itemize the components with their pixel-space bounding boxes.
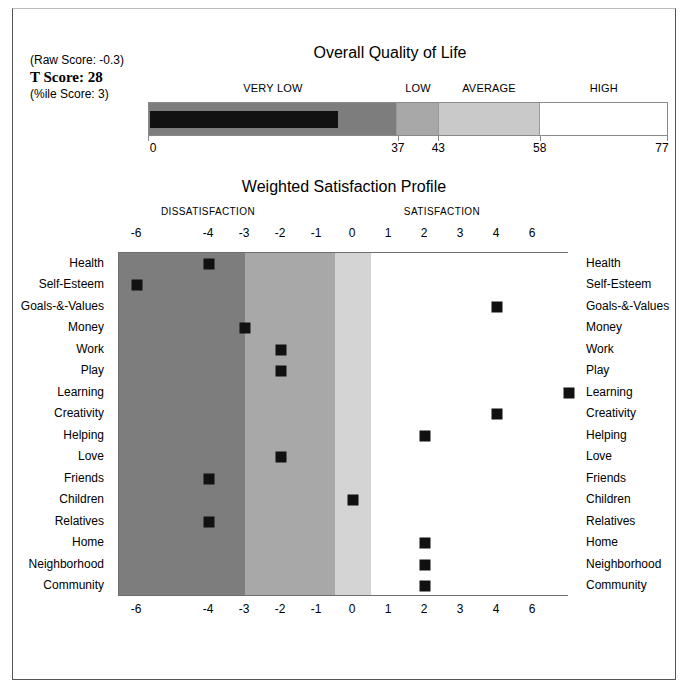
qol-category-label-high: HIGH (540, 82, 668, 94)
profile-band-moderate-dissatisfaction (245, 253, 336, 595)
profile-axis-top-tick-0: 0 (349, 226, 356, 240)
raw-score-text: (Raw Score: -0.3) (30, 52, 180, 68)
profile-axis-bot-tick--2: -2 (275, 602, 286, 616)
profile-axis-top-tick-3: 3 (457, 226, 464, 240)
profile-row-label-left: Helping (63, 428, 104, 442)
qol-tick-label-43: 43 (432, 141, 445, 155)
profile-row-label-right: Self-Esteem (586, 277, 651, 291)
qol-tick-label-58: 58 (533, 141, 546, 155)
profile-axis-top-tick-4: 4 (493, 226, 500, 240)
qol-tick-label-37: 37 (391, 141, 404, 155)
profile-axis-bot-tick-4: 4 (493, 602, 500, 616)
quality-of-life-category-labels: VERY LOWLOWAVERAGEHIGH (148, 82, 668, 102)
profile-row-label-left: Learning (57, 385, 104, 399)
profile-axis-bot-tick-3: 3 (457, 602, 464, 616)
profile-marker (420, 430, 431, 441)
quality-of-life-axis: 037435877 (148, 136, 668, 158)
profile-row-label-right: Friends (586, 471, 626, 485)
profile-row-label-left: Play (81, 363, 104, 377)
profile-row-labels-right: HealthSelf-EsteemGoals-&-ValuesMoneyWork… (578, 252, 688, 596)
profile-axis-bot-tick-1: 1 (385, 602, 392, 616)
profile-axis-top-tick--2: -2 (275, 226, 286, 240)
profile-axis-bottom: -6-4-3-2-1012346 (0, 596, 688, 620)
profile-axis-bot-tick--4: -4 (203, 602, 214, 616)
profile-band-satisfaction (371, 253, 569, 595)
profile-row-label-right: Play (586, 363, 609, 377)
profile-axis-bot-tick-2: 2 (421, 602, 428, 616)
profile-marker (420, 581, 431, 592)
profile-axis-bot-tick-0: 0 (349, 602, 356, 616)
qol-tick-label-0: 0 (150, 141, 157, 155)
profile-axis-bot-tick--6: -6 (131, 602, 142, 616)
profile-page: (Raw Score: -0.3) T Score: 28 (%ile Scor… (0, 0, 688, 694)
profile-row-label-left: Self-Esteem (39, 277, 104, 291)
profile-row-label-left: Children (59, 492, 104, 506)
quality-of-life-title: Overall Quality of Life (190, 44, 590, 62)
profile-row-label-right: Relatives (586, 514, 635, 528)
weighted-satisfaction-chart: DISSATISFACTIONSATISFACTION -6-4-3-2-101… (0, 206, 688, 246)
profile-row-label-right: Community (586, 578, 647, 592)
profile-row-label-right: Work (586, 342, 614, 356)
profile-row-label-left: Home (72, 535, 104, 549)
profile-row-label-right: Learning (586, 385, 633, 399)
weighted-satisfaction-title: Weighted Satisfaction Profile (144, 178, 544, 196)
profile-marker (420, 538, 431, 549)
quality-of-life-bar (148, 102, 668, 136)
qol-tick-label-77: 77 (655, 141, 668, 155)
qol-score-indicator-bar (150, 111, 338, 128)
profile-axis-bottom-wrap: -6-4-3-2-1012346 (0, 596, 688, 620)
profile-axis-top-tick--6: -6 (131, 226, 142, 240)
profile-marker (492, 301, 503, 312)
profile-axis-top-tick-2: 2 (421, 226, 428, 240)
profile-marker (492, 409, 503, 420)
profile-marker (276, 452, 287, 463)
profile-marker (348, 495, 359, 506)
profile-header-satisfaction: SATISFACTION (404, 206, 480, 217)
qol-category-label-average: AVERAGE (438, 82, 539, 94)
profile-section-headers: DISSATISFACTIONSATISFACTION (0, 206, 688, 224)
profile-header-dissatisfaction: DISSATISFACTION (161, 206, 255, 217)
profile-band-severe-dissatisfaction (119, 253, 246, 595)
profile-row-label-right: Goals-&-Values (586, 299, 669, 313)
profile-row-label-left: Relatives (55, 514, 104, 528)
profile-row-label-left: Friends (64, 471, 104, 485)
profile-row-label-left: Love (78, 449, 104, 463)
profile-row-label-left: Money (68, 320, 104, 334)
profile-row-label-right: Love (586, 449, 612, 463)
qol-segment-high (540, 103, 667, 135)
profile-marker (564, 387, 575, 398)
profile-row-label-right: Helping (586, 428, 627, 442)
profile-marker (204, 516, 215, 527)
profile-row-label-right: Health (586, 256, 621, 270)
profile-row-label-right: Money (586, 320, 622, 334)
qol-category-label-low: LOW (398, 82, 439, 94)
profile-axis-top-tick--3: -3 (239, 226, 250, 240)
profile-marker (420, 559, 431, 570)
profile-axis-top-tick--1: -1 (311, 226, 322, 240)
qol-segment-average (439, 103, 540, 135)
profile-plot-area (118, 252, 568, 596)
profile-row-label-right: Neighborhood (586, 557, 661, 571)
profile-marker (276, 344, 287, 355)
profile-marker (240, 323, 251, 334)
profile-row-label-right: Creativity (586, 406, 636, 420)
page-top-rule (12, 8, 676, 9)
qol-category-label-very-low: VERY LOW (148, 82, 398, 94)
qol-segment-low (397, 103, 438, 135)
profile-marker (132, 280, 143, 291)
profile-band-slight-dissatisfaction (335, 253, 372, 595)
profile-row-label-left: Health (69, 256, 104, 270)
profile-marker (276, 366, 287, 377)
profile-row-label-left: Goals-&-Values (21, 299, 104, 313)
profile-axis-bot-tick--3: -3 (239, 602, 250, 616)
profile-axis-top: -6-4-3-2-1012346 (0, 224, 688, 246)
profile-row-label-left: Creativity (54, 406, 104, 420)
profile-axis-bot-tick-6: 6 (529, 602, 536, 616)
profile-row-labels-left: HealthSelf-EsteemGoals-&-ValuesMoneyWork… (0, 252, 112, 596)
profile-row-label-left: Neighborhood (29, 557, 104, 571)
profile-axis-top-tick--4: -4 (203, 226, 214, 240)
profile-axis-bot-tick--1: -1 (311, 602, 322, 616)
quality-of-life-chart: VERY LOWLOWAVERAGEHIGH 037435877 (148, 82, 668, 158)
profile-row-label-right: Home (586, 535, 618, 549)
profile-axis-top-tick-6: 6 (529, 226, 536, 240)
